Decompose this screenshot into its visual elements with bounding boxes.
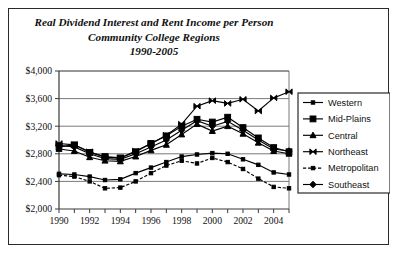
- legend-label: Mid-Plains: [328, 114, 371, 124]
- legend-item-southeast[interactable]: Southeast: [303, 180, 370, 190]
- series-metropolitan: [57, 156, 290, 190]
- legend-label: Central: [328, 131, 358, 141]
- x-axis-tick-label: 1994: [111, 215, 130, 226]
- chart-legend: WesternMid-PlainsCentralNortheastMetropo…: [298, 93, 390, 193]
- data-series: [56, 89, 292, 190]
- y-axis-tick-label: $3,200: [26, 121, 53, 132]
- y-axis-ticks: $2,000$2,400$2,800$3,200$3,600$4,000: [26, 65, 59, 214]
- x-axis-tick-label: 2004: [264, 215, 283, 226]
- chart-figure: Real Dividend Interest and Rent Income p…: [8, 8, 389, 245]
- series-northeast: [56, 89, 292, 161]
- legend-label: Southeast: [328, 180, 370, 190]
- series-central: [56, 121, 292, 164]
- legend-label: Metropolitan: [328, 163, 379, 173]
- y-axis-tick-label: $2,800: [26, 148, 53, 159]
- y-axis-tick-label: $2,400: [26, 176, 53, 187]
- x-axis-tick-label: 2000: [203, 215, 222, 226]
- chart-plot-area: $2,000$2,400$2,800$3,200$3,600$4,000 199…: [9, 9, 390, 246]
- y-axis-tick-label: $3,600: [26, 93, 53, 104]
- x-axis-tick-label: 1992: [80, 215, 99, 226]
- y-axis-tick-label: $2,000: [26, 203, 53, 214]
- x-axis-tick-label: 1998: [172, 215, 191, 226]
- x-axis-tick-label: 1996: [141, 215, 160, 226]
- legend-label: Northeast: [328, 147, 368, 157]
- gridlines: [59, 71, 289, 181]
- x-axis-tick-label: 1990: [49, 215, 68, 226]
- legend-box: [298, 93, 390, 193]
- x-axis-ticks: 19901992199419961998200020022004: [49, 209, 289, 226]
- y-axis-tick-label: $4,000: [26, 65, 53, 76]
- x-axis-tick-label: 2002: [233, 215, 252, 226]
- legend-label: Western: [328, 98, 362, 108]
